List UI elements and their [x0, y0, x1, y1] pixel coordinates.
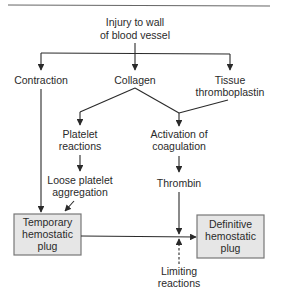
edge-temporary-definitive: [81, 236, 196, 237]
edge-loose-temporary: [65, 201, 74, 211]
node-tissue: Tissue thromboplastin: [196, 74, 265, 98]
node-injury-line1: Injury to wall: [106, 16, 164, 28]
node-loose-line1: Loose platelet: [47, 174, 112, 186]
node-temporary-line3: plug: [38, 240, 58, 252]
node-platelet-reactions-line2: reactions: [59, 140, 102, 152]
node-tissue-line1: Tissue: [215, 74, 246, 86]
node-loose-line2: aggregation: [52, 186, 108, 198]
node-thrombin: Thrombin: [157, 177, 202, 189]
node-temporary-line2: hemostatic: [22, 228, 73, 240]
node-loose: Loose platelet aggregation: [47, 174, 112, 198]
node-activation-line1: Activation of: [150, 128, 207, 140]
node-tissue-line2: thromboplastin: [196, 86, 265, 98]
node-platelet-reactions-line1: Platelet: [62, 128, 97, 140]
node-contraction: Contraction: [14, 74, 68, 86]
node-limiting-line2: reactions: [158, 277, 201, 289]
top-rule: [8, 5, 270, 6]
edge-injury-branches: [41, 43, 230, 70]
node-definitive: Definitive hemostatic plug: [197, 215, 264, 258]
node-definitive-line3: plug: [221, 242, 241, 254]
node-platelet-reactions: Platelet reactions: [59, 128, 102, 152]
node-injury: Injury to wall of blood vessel: [100, 16, 170, 41]
node-definitive-line1: Definitive: [209, 218, 252, 230]
hemostasis-flowchart: Injury to wall of blood vessel Contracti…: [0, 0, 282, 294]
node-limiting-line1: Limiting: [161, 265, 197, 277]
node-activation: Activation of coagulation: [150, 128, 207, 152]
node-temporary-line1: Temporary: [23, 216, 73, 228]
node-limiting: Limiting reactions: [158, 265, 201, 289]
node-definitive-line2: hemostatic: [205, 230, 256, 242]
node-collagen: Collagen: [114, 74, 156, 86]
node-temporary: Temporary hemostatic plug: [14, 214, 81, 255]
node-injury-line2: of blood vessel: [100, 29, 170, 41]
node-activation-line2: coagulation: [152, 140, 206, 152]
